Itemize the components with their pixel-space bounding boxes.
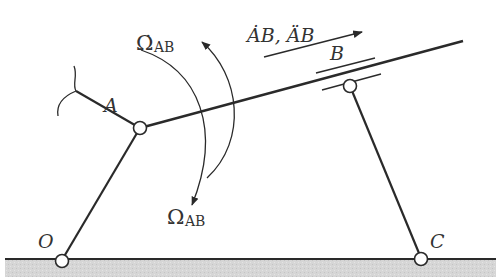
mechanism-diagram: A B O C Ω̇ AB Ω AB ȦB, ÄB	[0, 0, 501, 277]
collar-guide-top	[316, 58, 375, 73]
label-omega-sub: AB	[184, 213, 205, 229]
diagram-svg: A B O C Ω̇ AB Ω AB ȦB, ÄB	[0, 0, 501, 277]
label-C: C	[430, 230, 445, 252]
joint-O	[56, 255, 69, 268]
link-CB	[350, 86, 421, 258]
label-omega-dot-sub: AB	[153, 39, 174, 55]
joint-B	[344, 80, 357, 93]
label-omega: Ω	[167, 205, 184, 229]
label-O: O	[38, 230, 54, 252]
label-omega-dot: Ω̇	[136, 31, 153, 55]
joint-A	[134, 122, 147, 135]
break-mark	[58, 66, 76, 116]
omega-arc	[141, 50, 205, 205]
label-velocity-accel: ȦB, ÄB	[245, 24, 314, 46]
label-A: A	[102, 94, 118, 116]
label-B: B	[329, 42, 344, 64]
joint-C	[415, 253, 428, 266]
link-OA	[62, 128, 140, 260]
